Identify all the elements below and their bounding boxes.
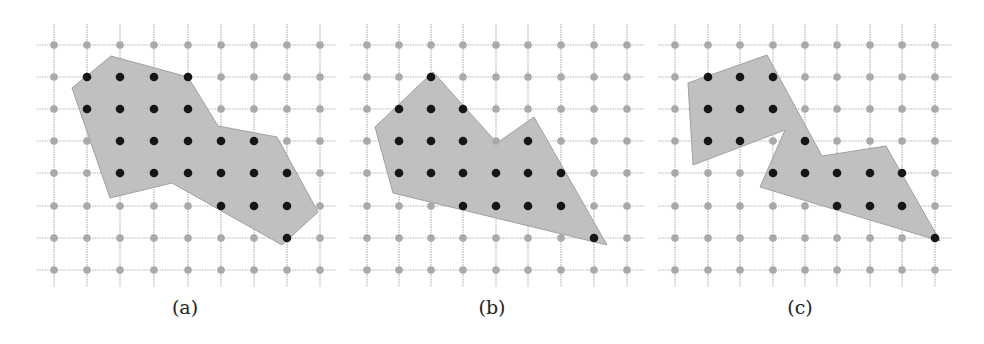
lattice-point xyxy=(671,137,679,145)
lattice-point xyxy=(557,73,565,81)
lattice-point xyxy=(363,137,371,145)
lattice-polygon-figure xyxy=(0,0,984,344)
lattice-point xyxy=(866,41,874,49)
lattice-point xyxy=(931,266,939,274)
lattice-point xyxy=(283,137,291,145)
interior-lattice-point xyxy=(866,169,875,178)
interior-lattice-point xyxy=(250,169,259,178)
interior-lattice-point xyxy=(283,169,292,178)
interior-lattice-point xyxy=(833,202,842,211)
interior-lattice-point xyxy=(116,137,125,146)
lattice-point xyxy=(557,41,565,49)
lattice-point xyxy=(524,105,532,113)
lattice-point xyxy=(459,266,467,274)
interior-lattice-point xyxy=(184,137,193,146)
lattice-point xyxy=(590,137,598,145)
interior-lattice-point xyxy=(524,169,533,178)
lattice-point xyxy=(50,105,58,113)
lattice-point xyxy=(736,41,744,49)
lattice-point xyxy=(116,41,124,49)
lattice-point xyxy=(590,266,598,274)
lattice-point xyxy=(898,234,906,242)
lattice-point xyxy=(316,137,324,145)
lattice-point xyxy=(459,41,467,49)
lattice-point xyxy=(623,41,631,49)
lattice-point xyxy=(459,73,467,81)
interior-lattice-point xyxy=(931,234,940,243)
lattice-point xyxy=(769,202,777,210)
lattice-point xyxy=(623,266,631,274)
lattice-point xyxy=(83,202,91,210)
interior-lattice-point xyxy=(427,169,436,178)
lattice-point xyxy=(704,202,712,210)
lattice-point xyxy=(833,234,841,242)
panel-a xyxy=(37,24,336,287)
lattice-point xyxy=(395,73,403,81)
lattice-point xyxy=(769,234,777,242)
lattice-point xyxy=(427,202,435,210)
lattice-point xyxy=(217,266,225,274)
interior-lattice-point xyxy=(150,73,159,82)
lattice-point xyxy=(671,73,679,81)
interior-lattice-point xyxy=(801,169,810,178)
lattice-point xyxy=(736,169,744,177)
panel-a-caption: (a) xyxy=(155,296,215,318)
interior-lattice-point xyxy=(250,202,259,211)
interior-lattice-point xyxy=(250,137,259,146)
lattice-point xyxy=(623,73,631,81)
lattice-point xyxy=(671,266,679,274)
lattice-point xyxy=(184,266,192,274)
lattice-point xyxy=(395,234,403,242)
lattice-point xyxy=(50,41,58,49)
lattice-point xyxy=(590,105,598,113)
lattice-point xyxy=(83,137,91,145)
lattice-point xyxy=(217,41,225,49)
lattice-point xyxy=(184,234,192,242)
lattice-point xyxy=(283,73,291,81)
interior-lattice-point xyxy=(769,105,778,114)
interior-lattice-point xyxy=(459,105,468,114)
interior-lattice-point xyxy=(184,73,193,82)
interior-lattice-point xyxy=(283,234,292,243)
lattice-point xyxy=(250,73,258,81)
interior-lattice-point xyxy=(769,73,778,82)
interior-lattice-point xyxy=(395,169,404,178)
lattice-point xyxy=(557,105,565,113)
lattice-point xyxy=(50,202,58,210)
lattice-point xyxy=(736,202,744,210)
lattice-point xyxy=(590,41,598,49)
lattice-point xyxy=(623,105,631,113)
interior-lattice-point xyxy=(557,169,566,178)
lattice-point xyxy=(704,169,712,177)
lattice-point xyxy=(931,137,939,145)
lattice-point xyxy=(83,169,91,177)
lattice-point xyxy=(769,41,777,49)
interior-lattice-point xyxy=(184,169,193,178)
lattice-point xyxy=(50,137,58,145)
lattice-point xyxy=(250,234,258,242)
panel-b xyxy=(350,24,644,287)
interior-lattice-point xyxy=(150,105,159,114)
lattice-point xyxy=(316,41,324,49)
interior-lattice-point xyxy=(704,73,713,82)
lattice-point xyxy=(492,266,500,274)
interior-lattice-point xyxy=(524,202,533,211)
lattice-point xyxy=(83,266,91,274)
lattice-point xyxy=(671,41,679,49)
lattice-point xyxy=(50,234,58,242)
interior-lattice-point xyxy=(736,105,745,114)
lattice-point xyxy=(50,73,58,81)
lattice-point xyxy=(363,169,371,177)
lattice-point xyxy=(557,266,565,274)
interior-lattice-point xyxy=(736,73,745,82)
lattice-point xyxy=(83,234,91,242)
lattice-point xyxy=(250,105,258,113)
lattice-point xyxy=(704,41,712,49)
lattice-point xyxy=(801,73,809,81)
lattice-point xyxy=(363,73,371,81)
lattice-point xyxy=(931,105,939,113)
lattice-point xyxy=(801,41,809,49)
interior-lattice-point xyxy=(283,202,292,211)
lattice-point xyxy=(427,234,435,242)
interior-lattice-point xyxy=(184,105,193,114)
